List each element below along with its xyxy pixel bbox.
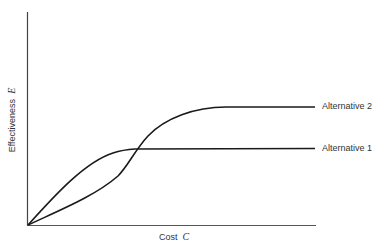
alternative-2-label: Alternative 2	[322, 101, 372, 111]
y-axis-title: Effectiveness E	[6, 88, 17, 153]
x-axis-title: Cost C	[159, 231, 189, 242]
y-axis-label: Effectiveness	[7, 99, 17, 152]
x-axis-label: Cost	[159, 232, 178, 242]
alternative-1-label: Alternative 1	[322, 143, 372, 153]
series-alternative-2	[28, 107, 315, 225]
y-axis-symbol: E	[6, 88, 17, 94]
legend-alternative-1: Alternative 1	[322, 143, 372, 153]
legend-alternative-2: Alternative 2	[322, 101, 372, 111]
chart-canvas	[0, 0, 386, 247]
x-axis-symbol: C	[183, 231, 190, 242]
series-alternative-1	[28, 149, 315, 226]
